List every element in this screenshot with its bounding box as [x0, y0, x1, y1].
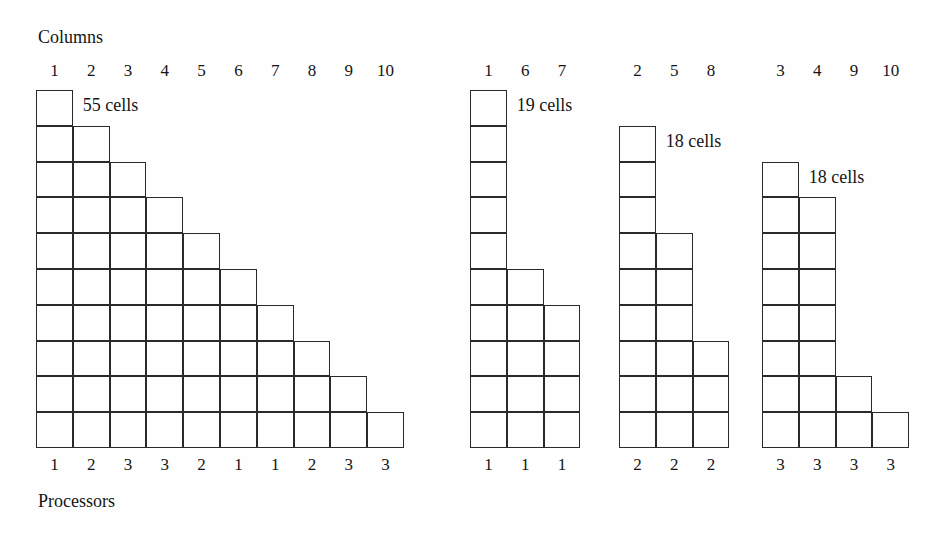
- processor-label-processor-3-9: 3: [836, 456, 873, 473]
- grid-cell: [762, 269, 799, 305]
- grid-cell: [799, 412, 836, 448]
- grid-cell: [799, 233, 836, 269]
- grid-cell: [762, 341, 799, 377]
- grid-cell: [799, 305, 836, 341]
- grid-cell: [799, 269, 836, 305]
- grid-cell: [762, 233, 799, 269]
- column-header-processor-3-9: 9: [836, 62, 873, 79]
- grid-cell: [762, 162, 799, 198]
- grid-cell: [799, 376, 836, 412]
- diagram-canvas: Columns Processors 112233435261718293103…: [0, 0, 947, 546]
- cell-count-label-processor-3: 18 cells: [809, 168, 865, 186]
- column-header-processor-3-4: 4: [799, 62, 836, 79]
- column-group-processor-3: 33439310318 cells: [0, 0, 947, 546]
- grid-cell: [872, 412, 909, 448]
- grid-cell: [836, 376, 873, 412]
- processor-label-processor-3-3: 3: [762, 456, 799, 473]
- processor-label-processor-3-4: 3: [799, 456, 836, 473]
- grid-cell: [762, 197, 799, 233]
- column-header-processor-3-10: 10: [872, 62, 909, 79]
- grid-cell: [762, 412, 799, 448]
- processor-label-processor-3-10: 3: [872, 456, 909, 473]
- grid-cell: [762, 305, 799, 341]
- column-header-processor-3-3: 3: [762, 62, 799, 79]
- grid-cell: [762, 376, 799, 412]
- grid-cell: [799, 341, 836, 377]
- grid-cell: [836, 412, 873, 448]
- grid-cell: [799, 197, 836, 233]
